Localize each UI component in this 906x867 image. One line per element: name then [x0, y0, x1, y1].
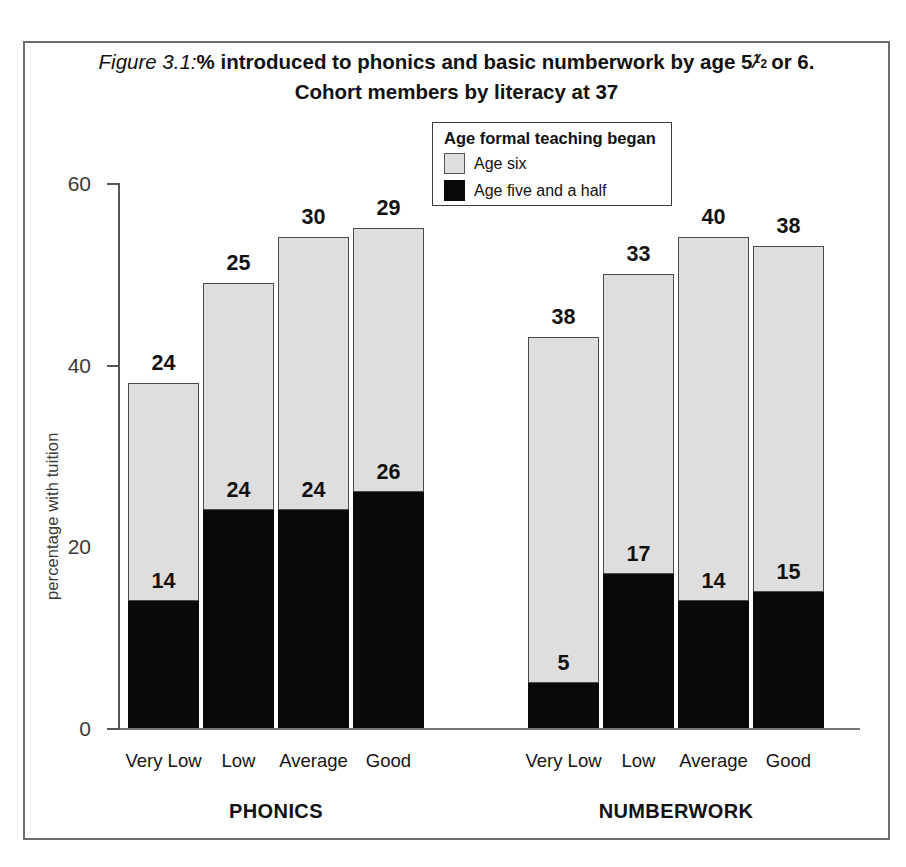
bar-segment-age-five-and-a-half: 14 [128, 601, 199, 728]
bar-value-age-five-and-a-half: 14 [678, 569, 749, 594]
one-half-fraction: 1⁄2 [752, 49, 765, 70]
legend-label-age-six: Age six [474, 155, 526, 173]
y-tick-60: 60 [107, 183, 120, 185]
bar-numberwork-good: 38 15 [753, 246, 824, 728]
x-axis-line [118, 728, 860, 730]
legend-item-age-six: Age six [444, 150, 671, 177]
bar-value-age-six: 33 [604, 242, 673, 267]
y-tick-label-40: 40 [68, 354, 91, 378]
bar-value-age-six: 38 [529, 305, 598, 330]
group-label-phonics: PHONICS [128, 800, 424, 823]
bar-segment-age-six: 40 [678, 237, 749, 601]
bar-value-age-six: 30 [279, 205, 348, 230]
y-axis-title: percentage with tuition [43, 433, 62, 600]
bar-segment-age-five-and-a-half: 5 [528, 683, 599, 729]
bar-value-age-five-and-a-half: 24 [278, 478, 349, 503]
bar-value-age-five-and-a-half: 26 [353, 460, 424, 485]
bar-value-age-five-and-a-half: 17 [603, 542, 674, 567]
legend-swatch-age-six-icon [444, 153, 465, 174]
bar-segment-age-five-and-a-half: 14 [678, 601, 749, 728]
bar-value-age-six: 25 [204, 251, 273, 276]
bar-segment-age-five-and-a-half: 26 [353, 492, 424, 728]
bar-value-age-six: 24 [129, 351, 198, 376]
figure-title-main-b: or 6. [765, 50, 814, 73]
figure-number-label: Figure 3.1: [99, 50, 197, 73]
legend-item-age-five-and-a-half: Age five and a half [444, 177, 671, 204]
chart-legend: Age formal teaching began Age six Age fi… [432, 122, 672, 206]
legend-title: Age formal teaching began [444, 128, 671, 148]
y-axis-line [118, 183, 120, 728]
bar-numberwork-very-low: 38 5 [528, 337, 599, 728]
bar-segment-age-six: 38 [528, 337, 599, 683]
figure-title-line-1: Figure 3.1:% introduced to phonics and b… [28, 48, 885, 76]
bar-value-age-six: 29 [354, 196, 423, 221]
bar-phonics-average: 30 24 [278, 237, 349, 728]
bar-value-age-five-and-a-half: 24 [203, 478, 274, 503]
figure-root: Figure 3.1:% introduced to phonics and b… [0, 0, 906, 867]
x-label-phonics-good: Good [341, 750, 436, 772]
fraction-denominator: 2 [760, 50, 767, 78]
plot-area: 60 40 20 0 percentage with tuition 24 14… [118, 175, 860, 728]
bar-segment-age-six: 29 [353, 228, 424, 492]
bar-value-age-six: 40 [679, 205, 748, 230]
bar-segment-age-six: 33 [603, 274, 674, 574]
legend-swatch-age-five-and-a-half-icon [444, 180, 465, 201]
y-tick-0: 0 [107, 728, 120, 730]
fraction-slash: ⁄ [754, 47, 757, 75]
y-tick-label-0: 0 [79, 717, 91, 741]
y-tick-label-20: 20 [68, 535, 91, 559]
group-label-numberwork: NUMBERWORK [528, 800, 824, 823]
bar-value-age-five-and-a-half: 5 [528, 651, 599, 676]
bar-segment-age-six: 30 [278, 237, 349, 510]
bar-segment-age-five-and-a-half: 24 [203, 510, 274, 728]
bar-numberwork-average: 40 14 [678, 237, 749, 728]
figure-subtitle: Cohort members by literacy at 37 [28, 78, 885, 106]
bar-segment-age-six: 25 [203, 283, 274, 510]
bar-numberwork-low: 33 17 [603, 274, 674, 729]
bar-value-age-five-and-a-half: 14 [128, 569, 199, 594]
bar-phonics-good: 29 26 [353, 228, 424, 728]
bar-segment-age-five-and-a-half: 17 [603, 574, 674, 729]
y-tick-40: 40 [107, 365, 120, 367]
x-label-numberwork-good: Good [741, 750, 836, 772]
bar-segment-age-five-and-a-half: 24 [278, 510, 349, 728]
figure-title-main-a: % introduced to phonics and basic number… [197, 50, 753, 73]
figure-title-block: Figure 3.1:% introduced to phonics and b… [28, 48, 885, 106]
bar-value-age-five-and-a-half: 15 [753, 560, 824, 585]
bar-segment-age-six: 38 [753, 246, 824, 592]
bar-phonics-very-low: 24 14 [128, 383, 199, 728]
bar-segment-age-five-and-a-half: 15 [753, 592, 824, 728]
bar-value-age-six: 38 [754, 214, 823, 239]
bar-phonics-low: 25 24 [203, 283, 274, 728]
y-tick-label-60: 60 [68, 172, 91, 196]
legend-label-age-five-and-a-half: Age five and a half [474, 182, 607, 200]
